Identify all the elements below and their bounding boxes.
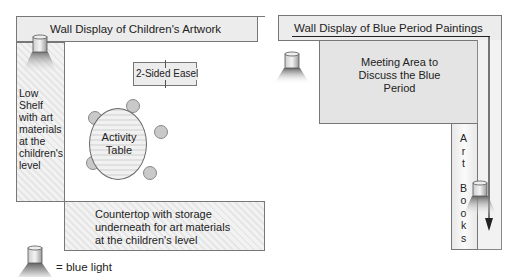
activity-table: Activity Table <box>89 108 147 180</box>
legend-label: = blue light <box>56 261 112 273</box>
easel-label: 2-Sided Easel <box>136 68 198 80</box>
low-shelf-label: Low Shelf with art materials at the chil… <box>19 87 63 171</box>
meeting-area: Meeting Area to Discuss the Blue Period <box>319 40 478 124</box>
two-sided-easel: 2-Sided Easel <box>133 62 197 86</box>
chair <box>154 125 168 139</box>
blue-light-icon <box>22 34 58 74</box>
right-wall-display-label: Wall Display of Blue Period Paintings <box>294 22 483 34</box>
left-wall-display-label: Wall Display of Children's Artwork <box>50 23 221 35</box>
legend: = blue light <box>14 243 154 277</box>
wall-display-underline <box>292 36 490 37</box>
countertop-label: Countertop with storage underneath for a… <box>95 208 230 247</box>
chair <box>143 166 157 180</box>
meeting-area-label: Meeting Area to Discuss the Blue Period <box>320 56 479 95</box>
blue-light-icon <box>18 243 52 277</box>
activity-table-label: Activity Table <box>90 131 148 157</box>
right-wall-display: Wall Display of Blue Period Paintings <box>278 15 502 41</box>
blue-light-icon <box>463 180 499 216</box>
blue-light-icon <box>274 50 310 84</box>
